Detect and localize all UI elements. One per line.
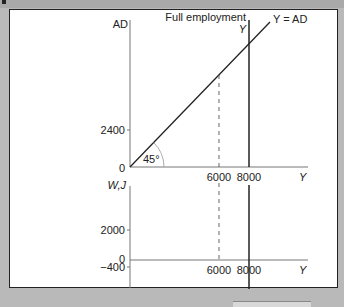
full-employment-label: Full employment [165,11,246,23]
x-axis-label-upper: Y [299,171,307,183]
angle-label: 45° [143,153,160,165]
x-tick-6000-lower: 6000 [207,264,231,276]
tick-label-2000: 2000 [101,224,125,236]
tick-label-minus-400: −400 [100,261,125,273]
x-tick-8000-lower: 8000 [237,264,261,276]
tick-label-2400: 2400 [101,124,125,136]
x-axis-label-lower: Y [299,264,307,276]
x-tick-6000-upper: 6000 [207,171,231,183]
upper-panel: AD 2400 0 45° 6000 8000 Y Full employmen… [101,11,308,183]
ad-axis-label: AD [113,18,128,30]
wj-axis-label: W,J [107,179,126,191]
lower-panel: W,J 2000 0 −400 6000 8000 Y [100,179,308,289]
x-tick-8000-upper: 8000 [237,171,261,183]
origin-label: 0 [119,162,125,174]
full-employment-sub-label: Y [239,23,247,35]
y-equals-ad-label: Y = AD [273,13,307,25]
